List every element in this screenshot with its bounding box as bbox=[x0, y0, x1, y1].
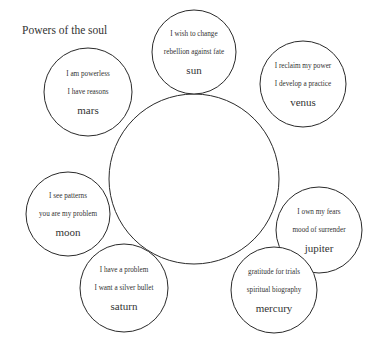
node-statement: you are my problem bbox=[39, 210, 97, 218]
powers-diagram: I wish to changerebellion against fatesu… bbox=[0, 0, 380, 345]
planet-node-venus: I reclaim my powerI develop a practiceve… bbox=[260, 41, 346, 127]
planet-label: mercury bbox=[256, 302, 293, 314]
node-statement: I see patterns bbox=[49, 192, 87, 200]
planet-node-saturn: I have a problemI want a silver bulletsa… bbox=[80, 244, 168, 332]
planet-node-mercury: gratitude for trialsspiritual biographym… bbox=[231, 247, 317, 333]
planet-node-sun: I wish to changerebellion against fatesu… bbox=[152, 10, 236, 94]
planet-label: mars bbox=[77, 104, 98, 116]
node-statement: I reclaim my power bbox=[275, 62, 332, 70]
node-statement: I am powerless bbox=[66, 70, 110, 78]
planet-node-mars: I am powerlessI have reasonsmars bbox=[44, 48, 132, 136]
node-statement: I have a problem bbox=[100, 266, 149, 274]
node-statement: I develop a practice bbox=[275, 80, 331, 88]
planet-label: saturn bbox=[111, 300, 138, 312]
planet-label: venus bbox=[290, 96, 316, 108]
node-statement: rebellion against fate bbox=[164, 48, 224, 56]
node-statement: I own my fears bbox=[297, 208, 341, 216]
node-statement: I have reasons bbox=[67, 88, 108, 96]
node-statement: mood of surrender bbox=[292, 226, 346, 234]
planet-label: jupiter bbox=[304, 242, 334, 254]
planet-label: sun bbox=[186, 64, 202, 76]
planet-label: moon bbox=[55, 226, 81, 238]
node-statement: gratitude for trials bbox=[248, 268, 300, 276]
node-statement: I wish to change bbox=[170, 30, 217, 38]
planet-node-moon: I see patternsyou are my problemmoon bbox=[26, 172, 110, 256]
central-circle bbox=[109, 94, 279, 264]
node-statement: I want a silver bullet bbox=[94, 284, 153, 292]
node-statement: spiritual biography bbox=[247, 286, 302, 294]
